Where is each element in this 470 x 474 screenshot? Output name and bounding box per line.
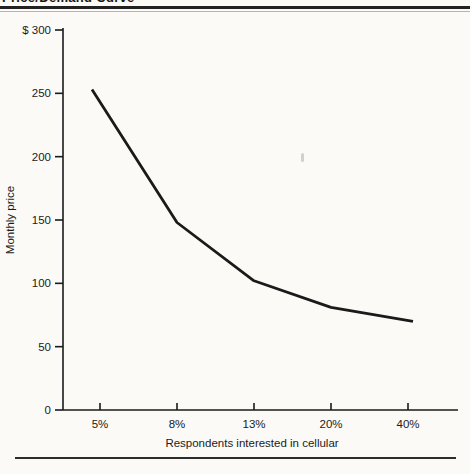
y-tick-label: 250	[32, 87, 51, 99]
x-axis-ticks: 5%8%13%20%40%	[92, 403, 420, 430]
y-tick-label: $ 300	[22, 24, 51, 36]
demand-curve-line	[92, 90, 413, 322]
y-tick-label: 50	[38, 341, 51, 353]
bottom-divider-rule	[15, 457, 456, 459]
x-tick-label: 8%	[169, 418, 186, 430]
x-tick-label: 40%	[396, 418, 419, 430]
scan-artifact-speck	[301, 153, 304, 162]
y-tick-label: 150	[32, 214, 51, 226]
y-axis-title: Monthly price	[4, 186, 16, 254]
x-axis-title: Respondents interested in cellular	[165, 437, 338, 449]
y-axis-ticks: 050100150200250$ 300	[22, 24, 63, 416]
y-tick-label: 200	[32, 151, 51, 163]
y-tick-label: 100	[32, 277, 51, 289]
price-demand-line-chart: 050100150200250$ 300 5%8%13%20%40% Month…	[0, 0, 470, 474]
scanned-chart-page: Price/Demand Curve 050100150200250$ 300 …	[0, 0, 470, 474]
chart-axes	[63, 28, 458, 410]
x-tick-label: 13%	[242, 418, 265, 430]
x-tick-label: 5%	[92, 418, 109, 430]
y-tick-label: 0	[45, 404, 51, 416]
x-tick-label: 20%	[319, 418, 342, 430]
